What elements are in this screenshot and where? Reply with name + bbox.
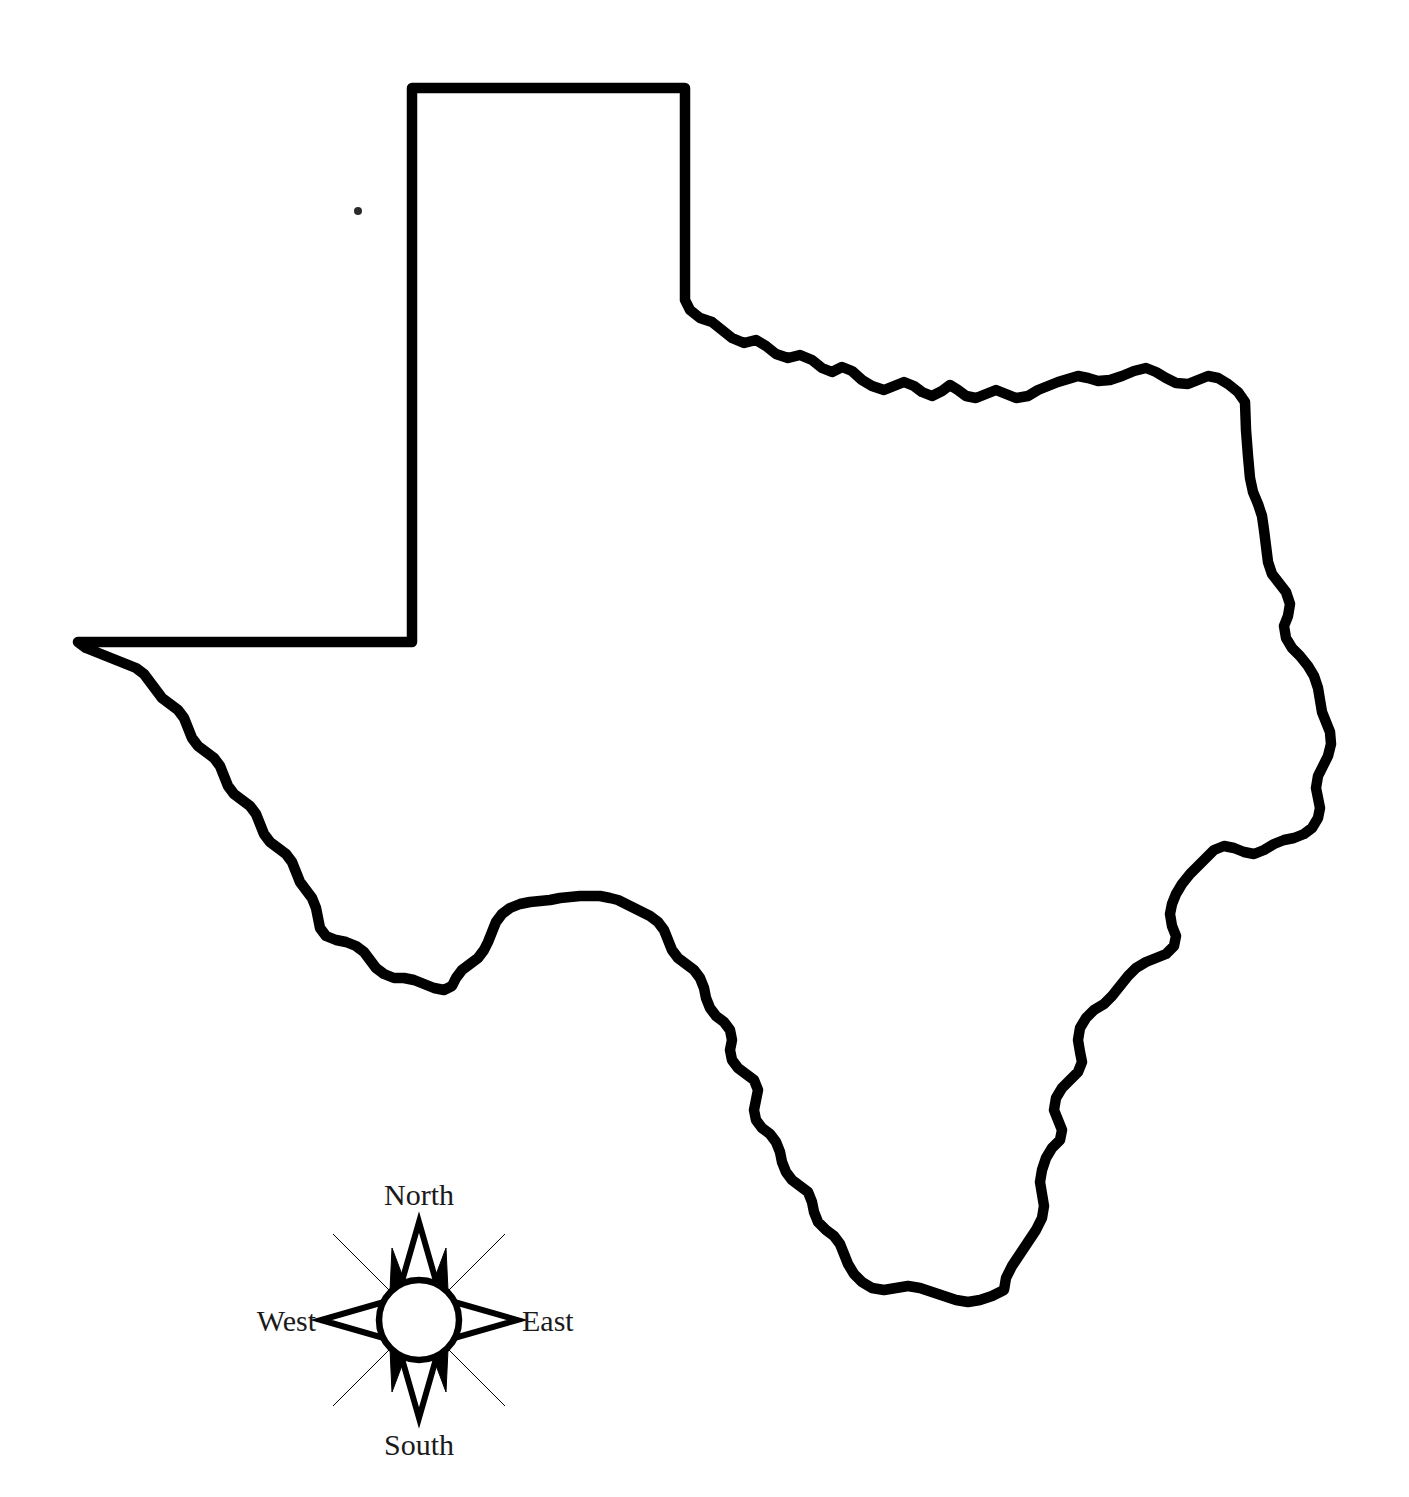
texas-state-outline (78, 88, 1331, 1302)
compass-rose: North South East West (257, 1178, 575, 1461)
compass-label-west: West (257, 1304, 317, 1337)
compass-label-south: South (384, 1428, 454, 1461)
ink-speck-artifact (354, 207, 362, 215)
texas-map-figure: North South East West (0, 0, 1409, 1497)
compass-label-north: North (384, 1178, 454, 1211)
texas-state-outline-group (78, 88, 1331, 1302)
compass-hub-circle (379, 1280, 459, 1360)
compass-label-east: East (522, 1304, 574, 1337)
